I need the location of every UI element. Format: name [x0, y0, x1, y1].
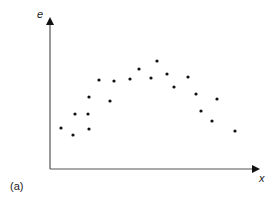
data-point — [137, 67, 140, 70]
data-point — [215, 97, 218, 100]
data-point — [172, 85, 175, 88]
data-point — [86, 112, 89, 115]
scatter-plot — [0, 0, 279, 204]
data-point — [112, 79, 115, 82]
panel-label: (a) — [10, 180, 23, 192]
data-point — [165, 72, 168, 75]
data-point — [210, 119, 213, 122]
data-point — [149, 76, 152, 79]
data-point — [233, 129, 236, 132]
data-point — [194, 92, 197, 95]
data-point — [155, 59, 158, 62]
data-point — [73, 112, 76, 115]
x-axis-label: x — [259, 172, 265, 184]
data-point — [97, 78, 100, 81]
y-axis-label: e — [37, 8, 43, 20]
data-point — [128, 77, 131, 80]
data-points — [59, 59, 236, 136]
data-point — [87, 95, 90, 98]
data-point — [199, 109, 202, 112]
data-point — [186, 75, 189, 78]
data-point — [87, 127, 90, 130]
data-point — [108, 99, 111, 102]
data-point — [59, 126, 62, 129]
data-point — [71, 133, 74, 136]
